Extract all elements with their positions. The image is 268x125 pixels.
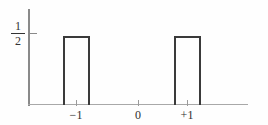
right-pulse-rect: [174, 36, 201, 105]
x-axis-tick-zero: [138, 100, 139, 106]
x-axis-tick-plus-1: [187, 100, 188, 106]
fraction-numerator: 1: [10, 20, 26, 33]
y-axis-tick-half: [30, 33, 37, 34]
x-axis-tick-minus-1: [76, 100, 77, 106]
x-axis-label-plus-1: +1: [172, 108, 202, 123]
y-axis-tick-label-half: 1 2: [10, 20, 26, 47]
fraction-denominator: 2: [10, 34, 26, 47]
x-axis-label-zero: 0: [123, 108, 153, 123]
y-axis-line: [28, 9, 30, 106]
left-pulse-rect: [63, 36, 90, 105]
pulse-plot-figure: 1 2 −1 0 +1: [0, 0, 268, 125]
x-axis-label-minus-1: −1: [61, 108, 91, 123]
